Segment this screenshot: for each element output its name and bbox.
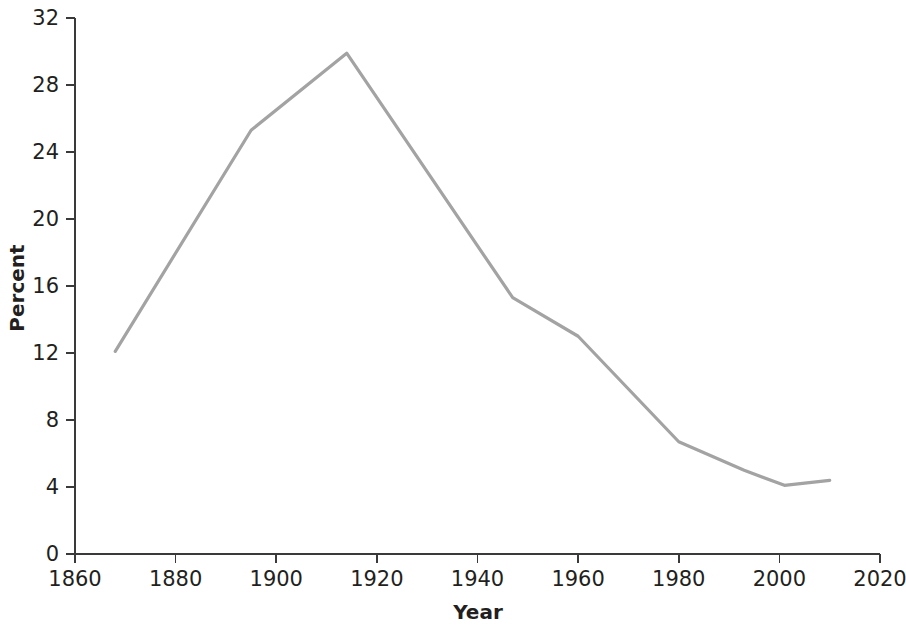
line-chart: 048121620242832 186018801900192019401960… [0,0,906,626]
x-tick-label: 1880 [149,567,202,591]
x-tick-label: 1940 [451,567,504,591]
x-tick-label: 1960 [551,567,604,591]
y-tick-label: 8 [46,408,59,432]
y-axis-tick-labels: 048121620242832 [32,6,59,566]
y-tick-label: 12 [32,341,59,365]
y-axis-title: Percent [5,244,29,332]
x-tick-label: 1860 [48,567,101,591]
y-tick-label: 20 [32,207,59,231]
y-axis-ticks [66,18,75,554]
x-tick-label: 2020 [853,567,906,591]
data-series-layer [115,53,829,485]
x-tick-label: 1980 [652,567,705,591]
chart-canvas: 048121620242832 186018801900192019401960… [0,0,906,626]
x-axis-ticks [75,554,880,563]
y-tick-label: 16 [32,274,59,298]
y-tick-label: 32 [32,6,59,30]
y-tick-label: 28 [32,73,59,97]
y-tick-label: 4 [46,475,59,499]
x-axis-tick-labels: 186018801900192019401960198020002020 [48,567,906,591]
data-series-line [115,53,829,485]
x-tick-label: 1900 [250,567,303,591]
y-tick-label: 0 [46,542,59,566]
y-tick-label: 24 [32,140,59,164]
x-tick-label: 2000 [753,567,806,591]
x-tick-label: 1920 [350,567,403,591]
x-axis-title: Year [452,600,503,624]
